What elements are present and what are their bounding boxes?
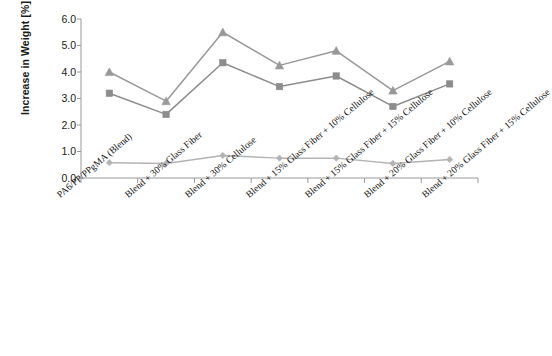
series-diamond: [106, 152, 453, 166]
data-point-marker: [106, 90, 112, 96]
data-point-marker: [276, 83, 282, 89]
data-point-marker: [219, 28, 227, 36]
data-point-marker: [390, 160, 396, 166]
data-point-marker: [446, 81, 452, 87]
data-point-marker: [445, 57, 453, 65]
data-point-marker: [333, 73, 339, 79]
data-point-marker: [332, 47, 340, 55]
data-point-marker: [220, 60, 226, 66]
data-point-marker: [163, 111, 169, 117]
data-point-marker: [105, 68, 113, 76]
series-triangle: [105, 28, 454, 105]
data-point-marker: [276, 155, 282, 161]
data-point-marker: [389, 86, 397, 94]
data-point-marker: [390, 103, 396, 109]
data-point-marker: [163, 160, 169, 166]
data-point-marker: [446, 156, 452, 162]
data-point-marker: [333, 155, 339, 161]
data-point-marker: [220, 152, 226, 158]
data-point-marker: [106, 159, 112, 165]
